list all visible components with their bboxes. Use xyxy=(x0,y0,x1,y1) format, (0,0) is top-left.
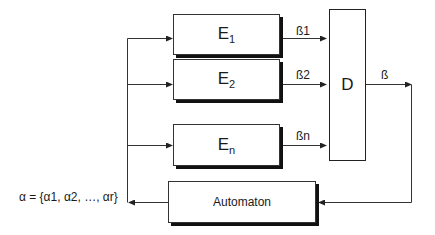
signal-b2-label: ß2 xyxy=(296,68,310,82)
signal-b1-label: ß1 xyxy=(296,24,310,38)
alpha-set-label: α = {α1, α2, …, αr} xyxy=(19,190,118,204)
block-automaton: Automaton xyxy=(168,181,316,223)
signal-bn-label: ßn xyxy=(296,129,310,143)
block-en-label: En xyxy=(218,135,235,156)
block-en: En xyxy=(173,124,280,166)
block-d-label: D xyxy=(341,75,353,95)
block-e2-label: E2 xyxy=(218,69,235,90)
signal-b-label: ß xyxy=(381,68,388,82)
block-d: D xyxy=(329,9,366,161)
block-automaton-label: Automaton xyxy=(213,195,271,209)
block-e1-label: E1 xyxy=(218,24,235,45)
block-e2: E2 xyxy=(173,59,280,100)
block-e1: E1 xyxy=(173,14,280,55)
